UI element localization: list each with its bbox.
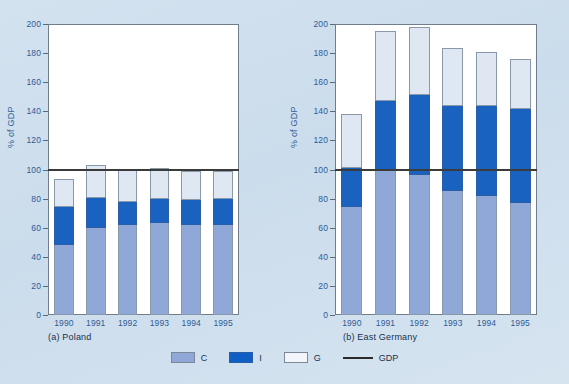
bar-segment-c[interactable] — [150, 222, 170, 315]
y-axis-tick-mark — [43, 140, 48, 141]
bar-segment-g[interactable] — [181, 171, 201, 200]
y-axis-tick-label: 100 — [11, 166, 41, 175]
bar-segment-g[interactable] — [510, 59, 531, 109]
y-axis-tick-label: 140 — [11, 107, 41, 116]
x-axis-tick-label: 1992 — [112, 318, 144, 328]
x-axis-tick-label: 1992 — [402, 318, 436, 328]
bar-segment-i[interactable] — [54, 206, 74, 246]
legend-item-gdp[interactable]: GDP — [343, 353, 399, 363]
y-axis-tick-label: 40 — [298, 253, 328, 262]
x-axis-tick-label: 1995 — [503, 318, 537, 328]
bar-segment-i[interactable] — [150, 198, 170, 223]
bar-segment-c[interactable] — [442, 190, 463, 315]
bar-segment-c[interactable] — [181, 224, 201, 315]
bar-segment-g[interactable] — [476, 52, 497, 106]
y-axis-tick-label: 140 — [298, 107, 328, 116]
bar-segment-c[interactable] — [118, 224, 138, 315]
bar-segment-g[interactable] — [409, 27, 430, 95]
y-axis-tick-mark — [330, 24, 335, 25]
bar-segment-g[interactable] — [150, 168, 170, 200]
bar-segment-c[interactable] — [375, 170, 396, 315]
y-axis-tick-mark — [330, 315, 335, 316]
y-axis-tick-mark — [43, 286, 48, 287]
y-axis-tick-mark — [330, 140, 335, 141]
bar-segment-i[interactable] — [476, 105, 497, 195]
y-axis-tick-label: 60 — [298, 224, 328, 233]
y-axis-tick-label: 120 — [11, 136, 41, 145]
y-axis-tick-label: 60 — [11, 224, 41, 233]
legend-item-c[interactable]: C — [171, 352, 208, 363]
x-axis-tick-label: 1994 — [175, 318, 207, 328]
y-axis-tick-mark — [43, 53, 48, 54]
bar-segment-i[interactable] — [510, 108, 531, 203]
y-axis-tick-label: 160 — [298, 78, 328, 87]
gdp-reference-line — [48, 169, 239, 171]
x-axis-tick-label: 1991 — [80, 318, 112, 328]
legend-item-i[interactable]: I — [229, 352, 262, 363]
y-axis-tick-label: 40 — [11, 253, 41, 262]
x-axis-tick-label: 1990 — [48, 318, 80, 328]
chart-legend: CIGGDP — [0, 352, 569, 363]
legend-swatch-icon — [229, 352, 253, 363]
bar-segment-c[interactable] — [86, 227, 106, 315]
y-axis-tick-label: 20 — [298, 282, 328, 291]
y-axis-tick-mark — [330, 286, 335, 287]
panel-east-germany: % of GDP (b) East Germany 02040608010012… — [283, 0, 569, 340]
bar-segment-g[interactable] — [375, 31, 396, 101]
bar-segment-i[interactable] — [118, 201, 138, 225]
legend-label: GDP — [379, 353, 399, 363]
y-axis-tick-mark — [43, 199, 48, 200]
bar-segment-i[interactable] — [213, 198, 233, 225]
y-axis-tick-mark — [330, 199, 335, 200]
bar-segment-i[interactable] — [341, 167, 362, 207]
bar-segment-c[interactable] — [54, 244, 74, 315]
y-axis-tick-label: 80 — [11, 195, 41, 204]
y-axis-tick-mark — [43, 24, 48, 25]
y-axis-tick-label: 80 — [298, 195, 328, 204]
bar-segment-i[interactable] — [375, 100, 396, 171]
bar-segment-g[interactable] — [118, 170, 138, 202]
bar-segment-i[interactable] — [442, 105, 463, 191]
y-axis-tick-label: 160 — [11, 78, 41, 87]
bar-segment-i[interactable] — [409, 94, 430, 176]
y-axis-tick-label: 100 — [298, 166, 328, 175]
y-axis-tick-label: 0 — [11, 311, 41, 320]
bar-segment-g[interactable] — [213, 171, 233, 199]
bar-segment-g[interactable] — [341, 114, 362, 168]
x-axis-tick-label: 1990 — [335, 318, 369, 328]
bar-segment-i[interactable] — [86, 197, 106, 229]
y-axis-tick-mark — [43, 315, 48, 316]
panel-caption-poland: (a) Poland — [48, 332, 92, 342]
legend-swatch-icon — [284, 352, 308, 363]
y-axis-tick-label: 20 — [11, 282, 41, 291]
y-axis-tick-label: 200 — [298, 20, 328, 29]
bar-segment-c[interactable] — [476, 195, 497, 315]
y-axis-tick-mark — [330, 257, 335, 258]
legend-item-g[interactable]: G — [284, 352, 321, 363]
legend-label: I — [259, 353, 262, 363]
y-axis-tick-mark — [43, 111, 48, 112]
legend-swatch-icon — [171, 352, 195, 363]
bar-segment-c[interactable] — [341, 206, 362, 315]
bar-segment-c[interactable] — [510, 202, 531, 315]
bar-segment-c[interactable] — [213, 224, 233, 315]
y-axis-tick-mark — [43, 257, 48, 258]
x-axis-tick-label: 1991 — [369, 318, 403, 328]
x-axis-tick-label: 1994 — [470, 318, 504, 328]
legend-label: G — [314, 353, 321, 363]
panel-poland: % of GDP (a) Poland 02040608010012014016… — [0, 0, 290, 340]
bar-segment-i[interactable] — [181, 199, 201, 225]
bar-segment-g[interactable] — [442, 48, 463, 106]
bar-segment-c[interactable] — [409, 174, 430, 315]
legend-label: C — [201, 353, 208, 363]
x-axis-tick-label: 1993 — [436, 318, 470, 328]
y-axis-tick-label: 0 — [298, 311, 328, 320]
x-axis-tick-label: 1993 — [144, 318, 176, 328]
y-axis-tick-label: 120 — [298, 136, 328, 145]
y-axis-tick-mark — [43, 82, 48, 83]
y-axis-tick-mark — [43, 228, 48, 229]
gdp-reference-line — [335, 169, 537, 171]
bar-segment-g[interactable] — [54, 179, 74, 206]
y-axis-tick-label: 180 — [298, 49, 328, 58]
y-axis-tick-mark — [330, 82, 335, 83]
